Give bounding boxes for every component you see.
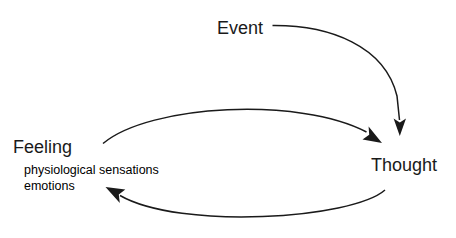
feeling-details: physiological sensations emotions — [24, 162, 159, 194]
arrow-thought-to-feeling-line — [120, 190, 385, 217]
node-label-thought: Thought — [371, 156, 437, 174]
arrow-event-to-thought-head — [394, 119, 406, 137]
arrow-event-to-thought-line — [273, 25, 400, 120]
node-label-event: Event — [217, 19, 263, 37]
node-feeling: Feeling physiological sensations emotion… — [13, 138, 159, 194]
diagram-canvas: Event Thought Feeling physiological sens… — [0, 0, 456, 238]
arrow-feeling-to-thought-head — [363, 126, 383, 143]
feeling-detail-emotions: emotions — [24, 178, 159, 194]
feeling-detail-physiological-sensations: physiological sensations — [24, 162, 159, 178]
node-label-feeling: Feeling — [13, 138, 159, 156]
